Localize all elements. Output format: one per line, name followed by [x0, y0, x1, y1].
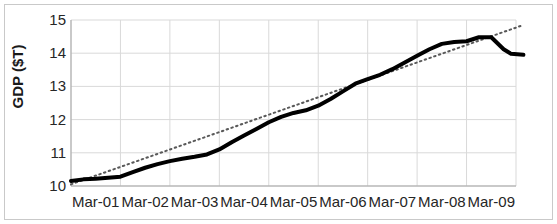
x-tick-label: Mar-09 — [456, 194, 526, 209]
gdp-series-line — [71, 37, 523, 181]
trendline-series — [71, 25, 523, 184]
gdp-line-chart: GDP ($T) 101112131415 Mar-01Mar-02Mar-03… — [0, 0, 557, 224]
x-axis-tick-labels: Mar-01Mar-02Mar-03Mar-04Mar-05Mar-06Mar-… — [0, 190, 557, 216]
